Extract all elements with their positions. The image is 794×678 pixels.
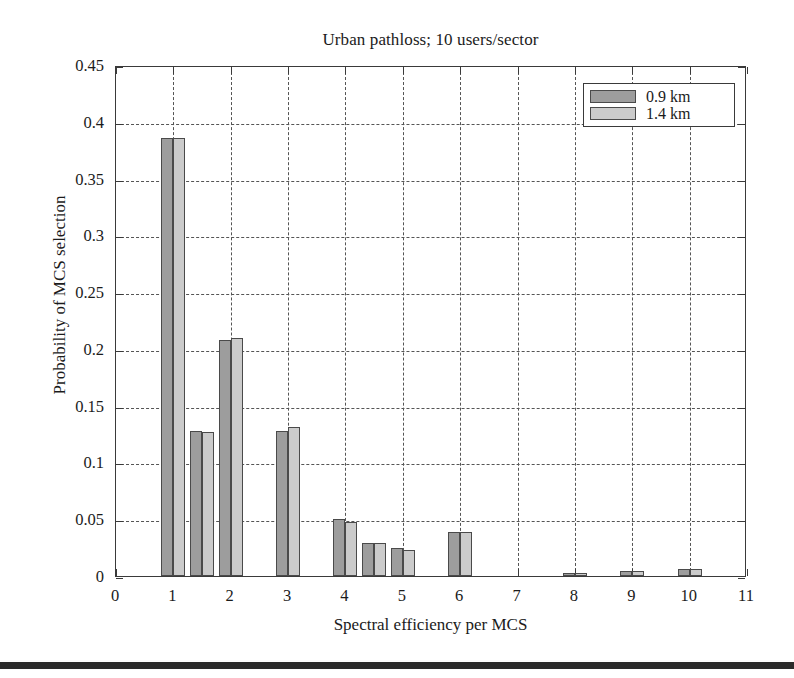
bar (231, 338, 243, 576)
x-tick-label: 0 (95, 586, 135, 606)
x-tick-label: 7 (497, 586, 537, 606)
gridline-horizontal (116, 181, 745, 182)
y-tick-label: 0.25 (0, 283, 104, 303)
y-tick-mark (116, 124, 123, 125)
x-tick-mark (575, 67, 576, 74)
x-tick-mark (288, 67, 289, 74)
x-tick-mark (632, 67, 633, 74)
page-divider-rule (0, 662, 794, 669)
gridline-horizontal (116, 294, 745, 295)
x-tick-label: 4 (324, 586, 364, 606)
x-tick-mark (747, 569, 748, 576)
y-tick-label: 0.3 (0, 226, 104, 246)
y-tick-mark (738, 67, 745, 68)
x-tick-label: 8 (554, 586, 594, 606)
gridline-vertical (403, 67, 404, 576)
y-tick-mark (116, 464, 123, 465)
bar (161, 138, 173, 576)
legend-swatch-icon (590, 90, 636, 103)
gridline-vertical (632, 67, 633, 576)
bar (288, 427, 300, 576)
y-tick-label: 0.35 (0, 170, 104, 190)
x-tick-label: 6 (439, 586, 479, 606)
y-tick-label: 0.15 (0, 397, 104, 417)
y-tick-mark (116, 294, 123, 295)
gridline-horizontal (116, 408, 745, 409)
x-tick-label: 2 (210, 586, 250, 606)
bar (403, 550, 415, 576)
bar (202, 432, 214, 576)
bar (362, 543, 374, 576)
x-tick-mark (690, 67, 691, 74)
x-tick-mark (403, 67, 404, 74)
y-tick-label: 0.05 (0, 510, 104, 530)
x-tick-mark (518, 67, 519, 74)
y-tick-label: 0.4 (0, 113, 104, 133)
bar (678, 569, 690, 576)
x-tick-mark (518, 569, 519, 576)
y-tick-label: 0 (0, 567, 104, 587)
y-tick-mark (116, 521, 123, 522)
gridline-vertical (345, 67, 346, 576)
y-tick-mark (738, 294, 745, 295)
bar (190, 431, 202, 576)
figure: Urban pathloss; 10 users/sector Probabil… (0, 0, 794, 678)
x-tick-label: 10 (669, 586, 709, 606)
y-tick-mark (738, 408, 745, 409)
bar (374, 543, 386, 576)
x-tick-mark (116, 67, 117, 74)
gridline-horizontal (116, 351, 745, 352)
bar (391, 548, 403, 576)
y-tick-mark (116, 237, 123, 238)
bar (690, 569, 702, 576)
bar (632, 571, 644, 576)
bar (563, 573, 575, 576)
x-axis-label: Spectral efficiency per MCS (115, 615, 746, 635)
chart-title: Urban pathloss; 10 users/sector (115, 30, 746, 50)
y-tick-mark (738, 351, 745, 352)
x-tick-mark (231, 67, 232, 74)
x-tick-label: 5 (382, 586, 422, 606)
bar (345, 522, 357, 577)
gridline-vertical (518, 67, 519, 576)
y-tick-mark (116, 67, 123, 68)
x-tick-label: 3 (267, 586, 307, 606)
legend-item: 0.9 km (590, 88, 728, 105)
y-tick-label: 0.45 (0, 56, 104, 76)
bar (333, 519, 345, 576)
y-tick-mark (116, 181, 123, 182)
legend-label: 1.4 km (646, 106, 690, 122)
x-tick-mark (460, 67, 461, 74)
x-tick-mark (345, 67, 346, 74)
y-tick-mark (116, 408, 123, 409)
x-tick-label: 1 (152, 586, 192, 606)
y-tick-label: 0.1 (0, 453, 104, 473)
bar (460, 532, 472, 576)
legend-item: 1.4 km (590, 105, 728, 122)
x-tick-label: 11 (726, 586, 766, 606)
gridline-vertical (460, 67, 461, 576)
legend: 0.9 km 1.4 km (583, 83, 735, 127)
gridline-vertical (690, 67, 691, 576)
plot-area: 0.9 km 1.4 km (115, 66, 746, 577)
bar (276, 431, 288, 576)
x-tick-mark (173, 67, 174, 74)
bar (173, 138, 185, 576)
y-tick-mark (116, 351, 123, 352)
y-tick-mark (738, 124, 745, 125)
y-tick-mark (738, 521, 745, 522)
bar (219, 340, 231, 576)
legend-label: 0.9 km (646, 89, 690, 105)
y-tick-mark (738, 578, 745, 579)
y-tick-mark (738, 464, 745, 465)
gridline-vertical (575, 67, 576, 576)
y-tick-mark (116, 578, 123, 579)
legend-swatch-icon (590, 107, 636, 120)
bar (620, 571, 632, 576)
y-tick-mark (738, 181, 745, 182)
bar (575, 573, 587, 576)
x-tick-mark (116, 569, 117, 576)
x-tick-mark (747, 67, 748, 74)
x-tick-label: 9 (611, 586, 651, 606)
bar (448, 532, 460, 576)
